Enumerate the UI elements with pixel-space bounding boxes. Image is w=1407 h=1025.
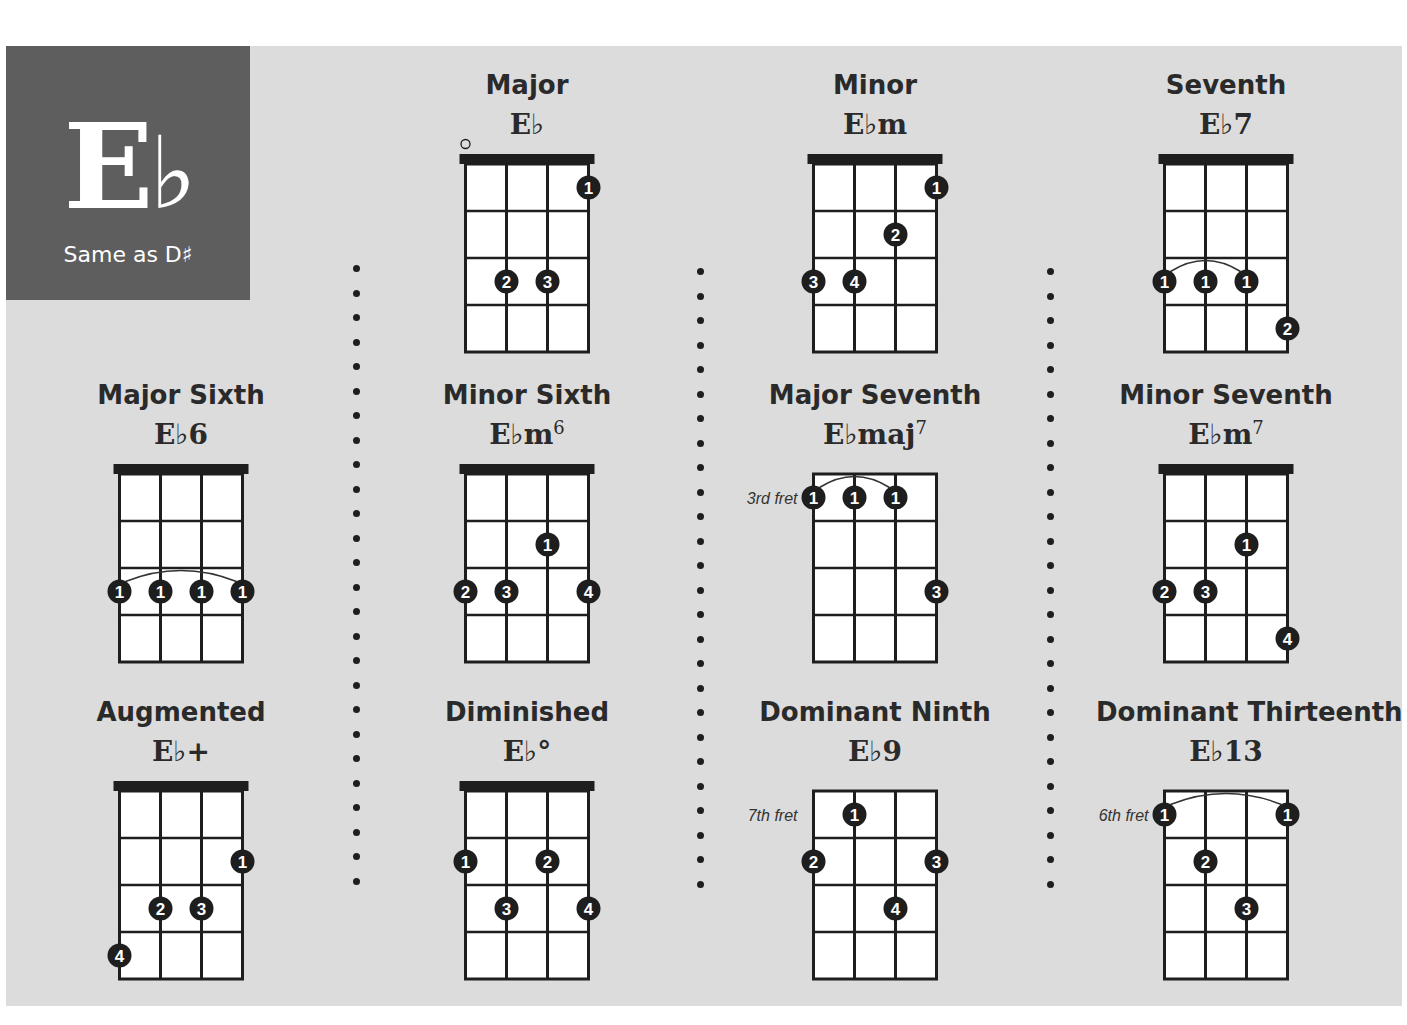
finger-dot-icon: 1 xyxy=(1235,533,1259,557)
fretboard-grid: 1234 xyxy=(397,763,657,1023)
finger-dot-icon: 1 xyxy=(577,176,601,200)
nut xyxy=(460,781,595,791)
separator-dot xyxy=(353,608,360,615)
svg-text:1: 1 xyxy=(115,583,124,602)
svg-text:2: 2 xyxy=(461,583,470,602)
finger-dot-icon: 1 xyxy=(108,580,132,604)
separator-dot xyxy=(697,807,704,814)
separator-dot xyxy=(353,363,360,370)
svg-text:1: 1 xyxy=(809,489,818,508)
separator-dot xyxy=(697,317,704,324)
nut xyxy=(114,781,249,791)
finger-dot-icon: 1 xyxy=(884,486,908,510)
dotted-separator-3 xyxy=(1047,268,1055,905)
chord-diagram-minor: MinorE♭m1234 xyxy=(745,70,1005,143)
svg-text:1: 1 xyxy=(1242,273,1251,292)
separator-dot xyxy=(1047,293,1054,300)
fretboard-grid: 1234 xyxy=(397,446,657,706)
svg-text:1: 1 xyxy=(238,583,247,602)
svg-text:3: 3 xyxy=(932,853,941,872)
svg-text:1: 1 xyxy=(461,853,470,872)
svg-text:3: 3 xyxy=(502,900,511,919)
svg-text:3: 3 xyxy=(197,900,206,919)
svg-text:1: 1 xyxy=(197,583,206,602)
separator-dot xyxy=(1047,807,1054,814)
chord-type-label: Dominant Thirteenth xyxy=(1096,697,1356,727)
separator-dot xyxy=(353,853,360,860)
separator-dot xyxy=(353,535,360,542)
separator-dot xyxy=(353,486,360,493)
key-enharmonic-note: Same as D♯ xyxy=(6,242,250,267)
separator-dot xyxy=(1047,415,1054,422)
svg-text:1: 1 xyxy=(584,179,593,198)
svg-text:2: 2 xyxy=(891,226,900,245)
separator-dot xyxy=(1047,464,1054,471)
svg-text:1: 1 xyxy=(238,853,247,872)
svg-text:3: 3 xyxy=(809,273,818,292)
svg-text:2: 2 xyxy=(809,853,818,872)
finger-dot-icon: 3 xyxy=(1235,897,1259,921)
separator-dot xyxy=(697,636,704,643)
chord-diagram-dominant-thirteenth: Dominant ThirteenthE♭136th fret1123 xyxy=(1096,697,1356,770)
finger-dot-icon: 1 xyxy=(843,803,867,827)
separator-dot xyxy=(353,829,360,836)
finger-dot-icon: 2 xyxy=(1153,580,1177,604)
separator-dot xyxy=(697,293,704,300)
finger-dot-icon: 1 xyxy=(536,533,560,557)
separator-dot xyxy=(353,437,360,444)
chord-diagram-augmented: AugmentedE♭+1234 xyxy=(51,697,311,770)
separator-dot xyxy=(1047,758,1054,765)
finger-dot-icon: 3 xyxy=(925,580,949,604)
separator-dot xyxy=(697,832,704,839)
fretboard-grid: 123 xyxy=(397,136,657,396)
finger-dot-icon: 4 xyxy=(1276,627,1300,651)
svg-text:1: 1 xyxy=(1160,273,1169,292)
chord-type-label: Diminished xyxy=(397,697,657,727)
svg-text:1: 1 xyxy=(1242,536,1251,555)
separator-dot xyxy=(1047,734,1054,741)
separator-dot xyxy=(697,881,704,888)
svg-text:2: 2 xyxy=(156,900,165,919)
chord-type-label: Major Seventh xyxy=(745,380,1005,410)
finger-dot-icon: 1 xyxy=(1153,270,1177,294)
finger-dot-icon: 1 xyxy=(1276,803,1300,827)
separator-dot xyxy=(697,538,704,545)
separator-dot xyxy=(1047,391,1054,398)
finger-dot-icon: 4 xyxy=(577,897,601,921)
svg-text:3: 3 xyxy=(1201,583,1210,602)
svg-text:4: 4 xyxy=(584,900,594,919)
separator-dot xyxy=(353,755,360,762)
chord-diagram-minor-sixth: Minor SixthE♭m61234 xyxy=(397,380,657,453)
separator-dot xyxy=(1047,709,1054,716)
separator-dot xyxy=(1047,489,1054,496)
svg-text:3: 3 xyxy=(543,273,552,292)
separator-dot xyxy=(697,391,704,398)
finger-dot-icon: 1 xyxy=(190,580,214,604)
finger-dot-icon: 2 xyxy=(536,850,560,874)
dotted-separator-2 xyxy=(697,268,705,905)
fret-position-label: 6th fret xyxy=(1099,807,1149,824)
chord-diagram-major-sixth: Major SixthE♭61111 xyxy=(51,380,311,453)
separator-dot xyxy=(353,290,360,297)
fretboard-grid: 6th fret1123 xyxy=(1096,763,1356,1023)
chord-type-label: Seventh xyxy=(1096,70,1356,100)
finger-dot-icon: 3 xyxy=(190,897,214,921)
svg-text:1: 1 xyxy=(932,179,941,198)
separator-dot xyxy=(1047,856,1054,863)
nut xyxy=(114,464,249,474)
svg-text:4: 4 xyxy=(115,947,125,966)
fretboard-grid: 1112 xyxy=(1096,136,1356,396)
svg-text:3: 3 xyxy=(502,583,511,602)
finger-dot-icon: 2 xyxy=(149,897,173,921)
separator-dot xyxy=(353,633,360,640)
finger-dot-icon: 3 xyxy=(925,850,949,874)
nut xyxy=(1159,154,1294,164)
finger-dot-icon: 3 xyxy=(495,897,519,921)
svg-text:2: 2 xyxy=(502,273,511,292)
finger-dot-icon: 1 xyxy=(1194,270,1218,294)
finger-dot-icon: 3 xyxy=(1194,580,1218,604)
separator-dot xyxy=(697,415,704,422)
separator-dot xyxy=(697,685,704,692)
svg-text:1: 1 xyxy=(850,806,859,825)
fret-position-label: 7th fret xyxy=(748,807,798,824)
